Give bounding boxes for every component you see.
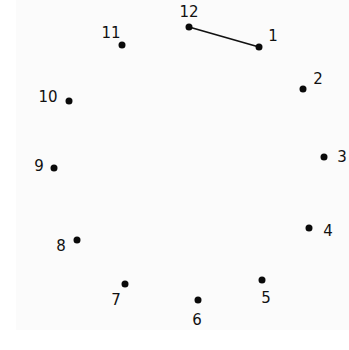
dot-label-7: 7 [111,293,121,308]
dot-label-11: 11 [101,26,120,41]
dot-8[interactable] [74,237,81,244]
dot-label-9: 9 [34,159,44,174]
dot-label-5: 5 [261,291,271,306]
dot-5[interactable] [259,277,266,284]
dot-label-2: 2 [313,72,323,87]
dot-label-10: 10 [38,90,57,105]
dot-2[interactable] [300,86,307,93]
dot-label-4: 4 [323,224,333,239]
dot-label-6: 6 [192,313,202,328]
dot-7[interactable] [122,281,129,288]
dot-3[interactable] [321,154,328,161]
dot-label-1: 1 [268,29,278,44]
dot-4[interactable] [306,225,313,232]
dot-11[interactable] [119,42,126,49]
dot-6[interactable] [195,297,202,304]
dot-1[interactable] [256,44,263,51]
dot-label-3: 3 [337,150,347,165]
dot-10[interactable] [66,98,73,105]
segment-12-1 [189,27,259,47]
dot-label-8: 8 [56,239,66,254]
drawn-lines [0,0,349,350]
dot-label-12: 12 [179,5,198,20]
dot-9[interactable] [51,165,58,172]
dot-12[interactable] [186,24,193,31]
